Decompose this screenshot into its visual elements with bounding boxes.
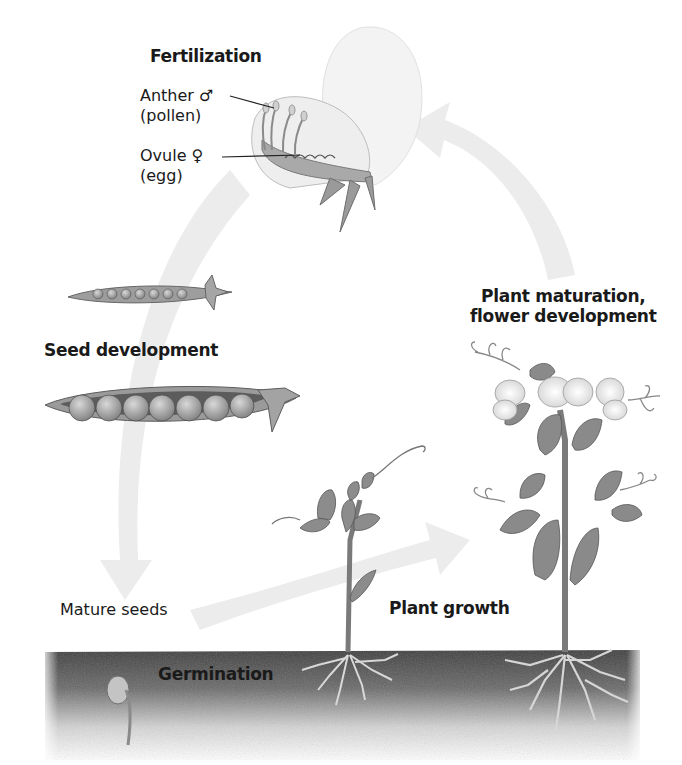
mature-pea-pod-illustration [45, 386, 300, 432]
young-pea-pod-illustration [68, 275, 232, 310]
plant-growth-label: Plant growth [389, 598, 509, 618]
anther-label: Anther ♂ [140, 86, 213, 105]
mature-seeds-label: Mature seeds [60, 600, 168, 619]
life-cycle-diagram: Fertilization Anther ♂ (pollen) Ovule ♀ … [0, 0, 682, 765]
ovule-label: Ovule ♀ [140, 146, 203, 165]
seed-development-label: Seed development [44, 340, 218, 360]
diagram-artwork [0, 0, 682, 765]
fertilization-label: Fertilization [150, 46, 262, 66]
ovule-sublabel: (egg) [140, 166, 183, 185]
anther-sublabel: (pollen) [140, 106, 201, 125]
plant-maturation-label: Plant maturation, flower development [470, 286, 657, 327]
germination-label: Germination [158, 664, 273, 684]
